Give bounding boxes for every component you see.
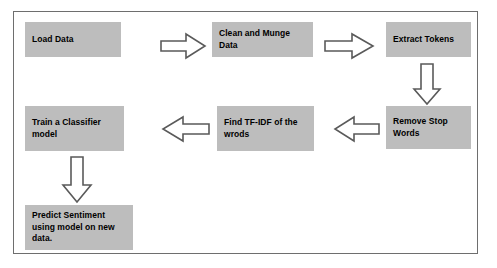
node-clean-and-munge-data-label: Clean and Munge Data	[219, 28, 306, 51]
arrow-clean-to-extract-icon	[324, 33, 374, 59]
node-find-tf-idf-label: Find TF-IDF of the wrods	[224, 117, 307, 140]
node-remove-stop-words-label: Remove Stop Words	[393, 116, 464, 139]
arrow-extract-to-remove-icon	[413, 63, 441, 105]
arrow-load-to-clean-icon	[160, 33, 206, 59]
node-train-classifier-label: Train a Classifier model	[32, 117, 117, 140]
node-find-tf-idf[interactable]: Find TF-IDF of the wrods	[217, 106, 314, 151]
node-extract-tokens[interactable]: Extract Tokens	[386, 22, 471, 57]
diagram-frame: Load Data Clean and Munge Data Extract T…	[13, 11, 478, 254]
node-load-data-label: Load Data	[32, 34, 74, 45]
diagram-canvas: Load Data Clean and Munge Data Extract T…	[0, 0, 497, 268]
node-load-data[interactable]: Load Data	[25, 22, 121, 57]
node-remove-stop-words[interactable]: Remove Stop Words	[386, 106, 471, 149]
arrow-remove-to-tfidf-icon	[334, 116, 380, 142]
node-clean-and-munge-data[interactable]: Clean and Munge Data	[212, 22, 313, 57]
node-extract-tokens-label: Extract Tokens	[393, 34, 454, 45]
node-predict-sentiment-label: Predict Sentiment using model on new dat…	[32, 210, 126, 244]
node-train-classifier[interactable]: Train a Classifier model	[25, 106, 124, 151]
arrow-tfidf-to-train-icon	[162, 116, 210, 142]
node-predict-sentiment[interactable]: Predict Sentiment using model on new dat…	[25, 205, 133, 250]
arrow-train-to-predict-icon	[62, 156, 92, 203]
